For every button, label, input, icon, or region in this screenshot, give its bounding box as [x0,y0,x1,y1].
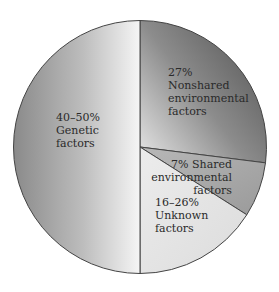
label-line: factors [168,105,207,118]
label-line: environmental [151,171,232,184]
label-line: 7% Shared [171,158,232,171]
label-line: 40–50% [56,111,100,124]
label-line: factors [56,137,95,150]
label-genetic: 40–50%Geneticfactors [56,111,100,150]
label-line: Nonshared [168,79,229,92]
label-line: factors [155,222,194,235]
label-line: Unknown [155,209,208,222]
pie-chart: 27%Nonsharedenvironmentalfactors7% Share… [0,0,279,292]
label-line: Genetic [56,124,99,137]
label-line: 16–26% [155,196,199,209]
label-line: 27% [168,66,192,79]
label-line: environmental [168,92,249,105]
label-line: factors [193,184,232,197]
